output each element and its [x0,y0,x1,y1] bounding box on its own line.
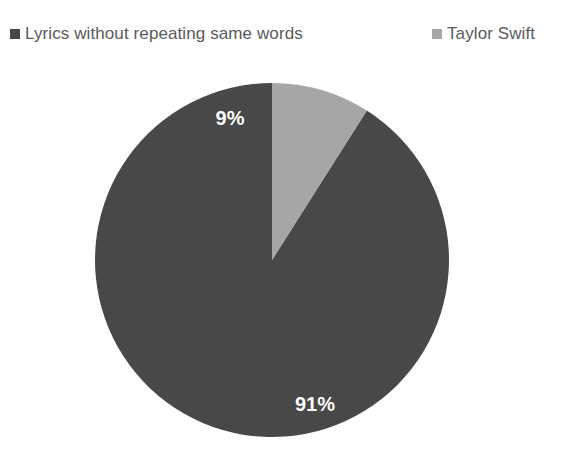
chart-legend: Lyrics without repeating same words Tayl… [0,0,579,62]
pie-slice-value-label-lyrics-without-repeating-same-words: 91% [295,394,335,414]
legend-item-taylor-swift[interactable]: Taylor Swift [432,24,535,44]
pie-chart-svg [0,62,579,461]
legend-swatch-icon-series-1 [432,29,442,39]
legend-swatch-icon-series-0 [10,29,20,39]
legend-item-lyrics-without-repeating-same-words[interactable]: Lyrics without repeating same words [10,24,303,44]
pie-slices-group [95,83,449,437]
pie-slice-value-label-taylor-swift: 9% [216,108,245,128]
legend-label-series-0: Lyrics without repeating same words [25,24,303,44]
legend-label-series-1: Taylor Swift [447,24,535,44]
pie-chart-plot-area: 91% 9% [0,62,579,461]
